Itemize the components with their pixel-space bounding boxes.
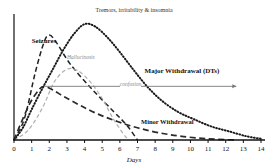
annotation-label-tremors: Tremors, irritability & insomnia xyxy=(0,7,268,13)
x-tick-label: 9 xyxy=(166,145,180,153)
series-label-major-withdrawal: Major Withdrawal (DTs) xyxy=(145,68,220,75)
series-label-hallucinosis: Hallucinosis xyxy=(67,55,95,61)
x-tick-label: 3 xyxy=(60,145,74,153)
curve-hallucinosis xyxy=(14,68,129,140)
x-tick-label: 4 xyxy=(78,145,92,153)
series-label-minor-withdrawal: Minor Withdrawal xyxy=(141,119,194,126)
x-tick-label: 5 xyxy=(95,145,109,153)
x-tick-label: 8 xyxy=(148,145,162,153)
annotation-label-confusion: confusion xyxy=(120,82,141,88)
withdrawal-timeline-chart: Seizures Hallucinosis Major Withdrawal (… xyxy=(0,0,268,167)
x-tick-label: 1 xyxy=(25,145,39,153)
x-tick-label: 10 xyxy=(183,145,197,153)
x-axis-title: Days xyxy=(0,156,268,164)
x-tick-label: 11 xyxy=(201,145,215,153)
series-label-seizures: Seizures xyxy=(32,38,57,45)
x-tick-label: 14 xyxy=(254,145,268,153)
x-tick-label: 0 xyxy=(7,145,21,153)
x-tick-label: 12 xyxy=(219,145,233,153)
x-tick-label: 2 xyxy=(42,145,56,153)
x-tick-label: 13 xyxy=(236,145,250,153)
x-tick-label: 6 xyxy=(113,145,127,153)
x-tick-label: 7 xyxy=(131,145,145,153)
confusion-arrow-head-right xyxy=(232,84,236,88)
curve-minor-withdrawal xyxy=(14,86,235,140)
